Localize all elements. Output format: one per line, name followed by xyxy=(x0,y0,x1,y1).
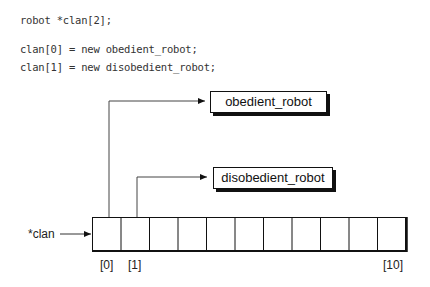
clan-pointer-label: *clan xyxy=(28,227,55,241)
obedient-robot-box: obedient_robot xyxy=(210,91,327,113)
array-cells xyxy=(92,217,407,252)
index-10-label: [10] xyxy=(383,258,403,272)
index-1-label: [1] xyxy=(128,258,141,272)
diagram-lines xyxy=(0,0,430,287)
disobedient-robot-box: disobedient_robot xyxy=(213,167,333,189)
index-0-label: [0] xyxy=(100,258,113,272)
